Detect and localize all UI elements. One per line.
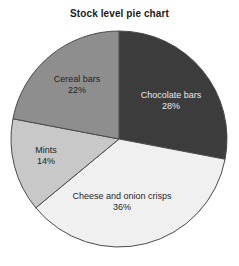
pie-slice-chocolate-bars: [119, 31, 227, 159]
pie-chart-canvas: [0, 0, 239, 266]
pie-chart-figure: Stock level pie chart Chocolate bars 28%…: [0, 0, 239, 266]
pie-slice-group: [11, 31, 227, 247]
